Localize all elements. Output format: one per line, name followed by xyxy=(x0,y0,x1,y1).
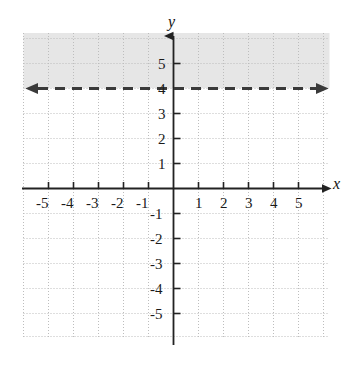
y-tick-label-neg5: -5 xyxy=(150,307,163,322)
graph-figure: -5 -4 -3 -2 -1 1 2 3 4 5 5 4 3 2 1 -1 -2… xyxy=(0,0,357,374)
x-tick-label-3: 3 xyxy=(245,196,253,211)
x-tick-label-neg5: -5 xyxy=(36,196,49,211)
y-tick-label-3: 3 xyxy=(158,107,166,122)
x-axis-label: x xyxy=(333,176,340,192)
y-tick-label-1: 1 xyxy=(158,157,166,172)
x-tick-label-5: 5 xyxy=(295,196,303,211)
y-tick-label-neg3: -3 xyxy=(150,257,163,272)
x-tick-label-4: 4 xyxy=(270,196,278,211)
y-tick-label-5: 5 xyxy=(158,57,166,72)
x-tick-label-neg3: -3 xyxy=(86,196,99,211)
x-tick-label-1: 1 xyxy=(195,196,203,211)
x-tick-label-neg1: -1 xyxy=(136,196,149,211)
x-tick-label-neg4: -4 xyxy=(61,196,74,211)
y-axis-label: y xyxy=(168,14,175,30)
coordinate-plane xyxy=(0,0,357,374)
x-tick-label-neg2: -2 xyxy=(111,196,124,211)
y-tick-label-2: 2 xyxy=(158,132,166,147)
shaded-region-y-greater-than-4 xyxy=(24,33,330,88)
x-axis xyxy=(22,182,322,189)
x-tick-label-2: 2 xyxy=(220,196,228,211)
y-tick-label-4: 4 xyxy=(158,82,166,97)
y-tick-label-neg2: -2 xyxy=(150,232,163,247)
y-tick-label-neg4: -4 xyxy=(150,282,163,297)
y-tick-label-neg1: -1 xyxy=(150,207,163,222)
